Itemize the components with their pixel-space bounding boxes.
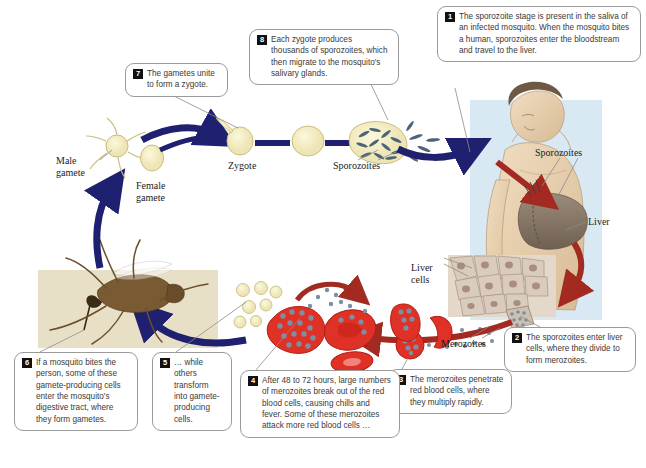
callout-7-text: The gametes unite to form a zygote. [147,68,220,91]
arrow-gametes-to-zygote-2 [160,138,216,151]
callout-6-text: If a mosquito bites the person, some of … [36,357,130,425]
callout-7: 7 The gametes unite to form a zygote. [125,63,228,97]
callout-5: 5 … while others transform into gamete-p… [152,352,232,431]
label-sporozoites-mosquito: Sporozoites [333,160,380,172]
callout-4-number: 4 [248,376,258,386]
label-sporozoites-human: Sporozoites [535,147,582,159]
callout-2: 2 The sporozoites enter liver cells, whe… [504,327,636,372]
callout-1-number: 1 [445,12,455,22]
malaria-life-cycle-diagram: Male gamete Female gamete Zygote Sporozo… [0,0,646,468]
label-liver-cells: Liver cells [411,262,433,285]
callout-2-number: 2 [512,333,522,343]
callout-6-number: 6 [22,358,32,368]
oocyst-illustration [292,126,324,156]
arrow-mosquito-to-gametes [97,190,110,268]
callout-1: 1 The sporozoite stage is present in the… [437,6,641,62]
callout-4: 4 After 48 to 72 hours, large numbers of… [240,370,400,438]
arrow-merozoites-to-rbc [368,322,512,340]
red-blood-cells-illustration [267,283,452,374]
arrow-gametes-to-zygote [142,128,214,140]
human-figure-panel [470,100,602,320]
callout-5-text: … while others transform into gamete-pro… [174,357,224,425]
label-male-gamete: Male gamete [56,155,85,178]
callout-3-text: The merozoites penetrate red blood cells… [410,374,504,408]
gamete-producing-cells [234,282,282,329]
label-female-gamete: Female gamete [136,180,165,203]
callout-8-text: Each zygote produces thousands of sporoz… [271,34,391,79]
mosquito-skin-panel [38,270,218,348]
zygote-illustration [216,118,253,155]
arrow-sporozoites-to-human [398,149,468,157]
female-gamete-illustration [141,145,164,171]
callout-8-number: 8 [257,35,267,45]
callout-1-text: The sporozoite stage is present in the s… [459,11,633,56]
label-zygote: Zygote [228,160,256,172]
arrow-reinfection-loop [297,284,356,300]
callout-4-text: After 48 to 72 hours, large numbers of m… [262,375,392,432]
callout-7-number: 7 [133,69,143,79]
sporozoite-cluster-illustration [349,120,440,163]
callout-2-text: The sporozoites enter liver cells, where… [526,332,628,366]
callout-6: 6 If a mosquito bites the person, some o… [14,352,138,431]
callout-3: 3 The merozoites penetrate red blood cel… [388,369,512,414]
label-merozoites: Merozoites [441,338,486,350]
male-gamete-illustration [86,118,148,178]
label-liver: Liver [588,216,610,228]
callout-5-number: 5 [160,358,170,368]
callout-8: 8 Each zygote produces thousands of spor… [249,29,399,85]
